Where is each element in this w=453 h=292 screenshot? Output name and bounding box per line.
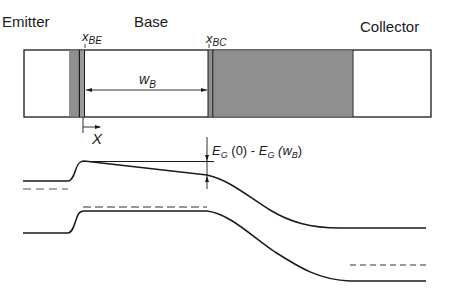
collector-label: Collector (360, 18, 419, 35)
emitter-label: Emitter (2, 13, 50, 30)
xbe-label: xBE (81, 29, 102, 46)
base-label: Base (134, 13, 168, 30)
conduction-band-edge (23, 161, 426, 228)
valence-band-edge (23, 211, 426, 281)
xbc-label: xBC (205, 31, 227, 48)
base-collector-depletion-thin (208, 51, 213, 117)
emitter-base-depletion (69, 51, 79, 117)
base-collector-depletion (214, 51, 353, 117)
bandgap-difference-label: EG (0) - EG (wB) (212, 143, 302, 160)
band-diagram: Emitter Base Collector xBE xBC wB X (0, 0, 453, 292)
x-axis-label: X (91, 130, 103, 147)
device-structure (24, 50, 431, 117)
emitter-base-depletion-thin (80, 51, 84, 117)
